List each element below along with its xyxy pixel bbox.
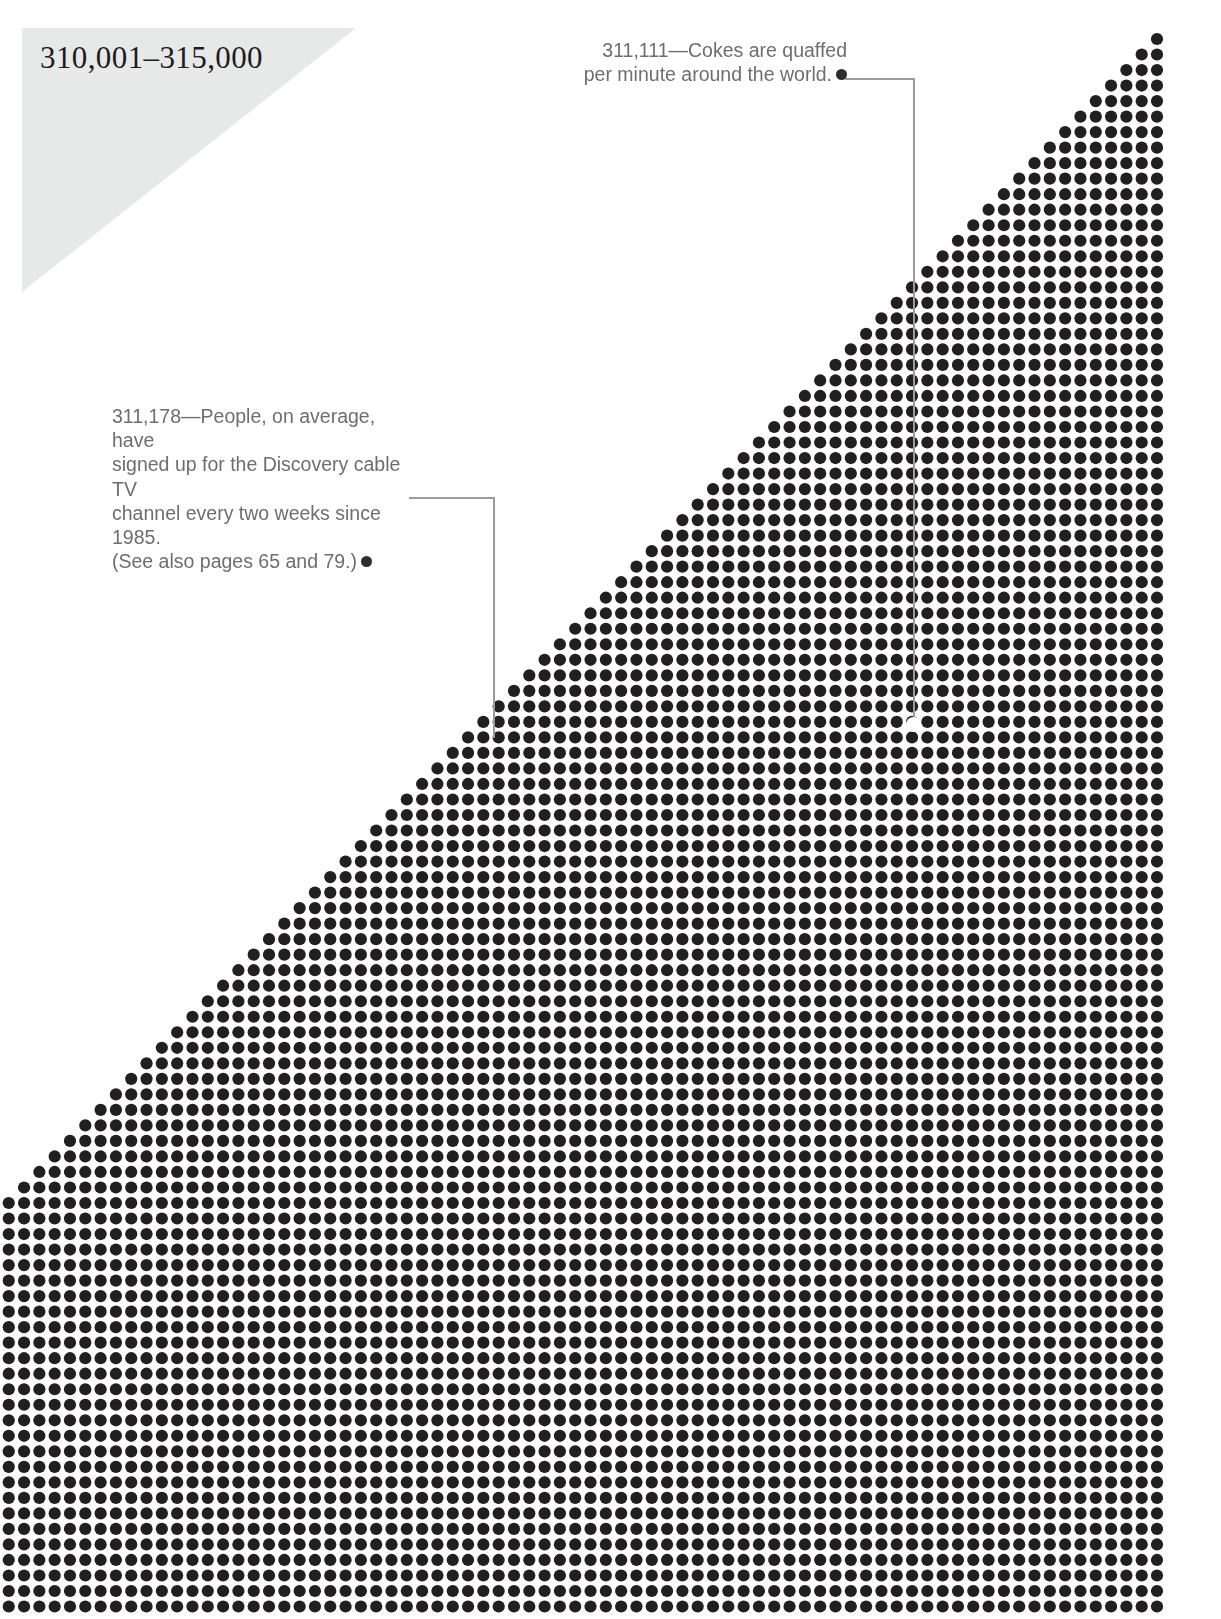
leader-line-cokes-vertical [913, 79, 915, 724]
dot-grid-infographic-page: 310,001–315,000 311,111—Cokes are quaffe… [0, 0, 1221, 1619]
unit-dot-grid [0, 0, 1221, 1619]
leader-line-discovery-vertical [493, 498, 495, 738]
leader-line-cokes-horizontal [845, 78, 915, 80]
annotation-discovery-text: 311,178—People, on average, have signed … [112, 405, 400, 572]
annotation-cokes-bullet [836, 69, 847, 80]
target-dot-cokes [906, 717, 921, 732]
annotation-cokes: 311,111—Cokes are quaffed per minute aro… [537, 38, 847, 86]
annotation-discovery-bullet [361, 556, 372, 567]
annotation-discovery: 311,178—People, on average, have signed … [112, 404, 417, 573]
annotation-cokes-text: 311,111—Cokes are quaffed per minute aro… [584, 39, 847, 85]
leader-line-discovery-horizontal [409, 497, 495, 499]
